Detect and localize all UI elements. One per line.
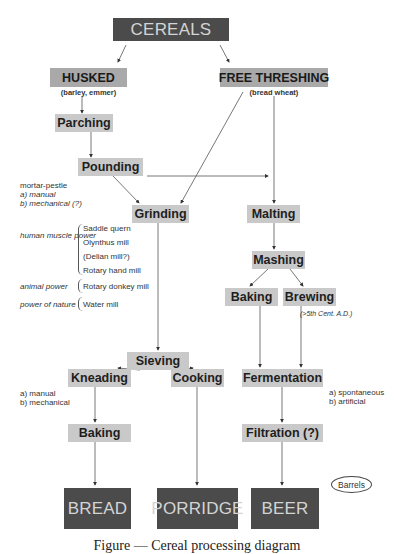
kneading-method-1: b) mechanical bbox=[20, 398, 70, 408]
node-label: Cooking bbox=[173, 371, 223, 385]
mill-saddle-quern: Saddle quern bbox=[83, 224, 131, 234]
node-label: Baking bbox=[79, 426, 121, 440]
node-label: Pounding bbox=[82, 160, 140, 174]
node-baking-beer: Baking bbox=[225, 288, 278, 306]
node-label: Parching bbox=[57, 116, 111, 130]
mill-rotary-hand: Rotary hand mill bbox=[83, 266, 141, 276]
node-cereals: CEREALS bbox=[113, 18, 229, 41]
figure-caption: Figure — Cereal processing diagram bbox=[0, 538, 394, 554]
node-label: Fermentation bbox=[243, 371, 322, 385]
barrels-ellipse: Barrels bbox=[331, 476, 372, 493]
node-grinding: Grinding bbox=[132, 205, 189, 223]
node-label: PORRIDGE bbox=[151, 499, 243, 519]
node-label: Kneading bbox=[71, 371, 128, 385]
mill-olynthus: Olynthus mill bbox=[83, 238, 129, 248]
node-beer: BEER bbox=[251, 488, 319, 529]
mill-delian: (Delian mill?) bbox=[83, 252, 130, 262]
node-kneading: Kneading bbox=[68, 369, 131, 387]
mill-water: Water mill bbox=[83, 300, 118, 310]
node-porridge: PORRIDGE bbox=[157, 488, 238, 529]
node-bread: BREAD bbox=[64, 488, 131, 529]
node-label: BREAD bbox=[68, 499, 128, 519]
node-label: Grinding bbox=[134, 207, 186, 221]
node-parching: Parching bbox=[55, 114, 113, 132]
brewing-subtitle: (>5th Cent. A.D.) bbox=[300, 309, 352, 319]
husked-subtitle: (barley, emmer) bbox=[50, 88, 127, 97]
node-label: Baking bbox=[231, 290, 273, 304]
power-animal-label: animal power bbox=[20, 282, 68, 292]
node-mashing: Mashing bbox=[252, 251, 305, 269]
node-husked: HUSKED bbox=[50, 68, 127, 87]
free-threshing-subtitle: (bread wheat) bbox=[220, 88, 328, 97]
node-label: Filtration (?) bbox=[246, 426, 319, 440]
node-label: CEREALS bbox=[131, 20, 212, 40]
node-brewing: Brewing bbox=[283, 288, 336, 306]
node-label: FREE THRESHING bbox=[219, 71, 329, 85]
node-fermentation: Fermentation bbox=[242, 369, 323, 387]
pounding-method-2: b) mechanical (?) bbox=[20, 199, 82, 209]
node-filtration: Filtration (?) bbox=[242, 424, 323, 442]
node-malting: Malting bbox=[247, 205, 300, 223]
node-cooking: Cooking bbox=[171, 369, 224, 387]
node-label: Brewing bbox=[285, 290, 334, 304]
node-baking-bread: Baking bbox=[68, 424, 131, 442]
node-pounding: Pounding bbox=[78, 158, 143, 176]
node-label: Mashing bbox=[253, 253, 304, 267]
node-free-threshing: FREE THRESHING bbox=[220, 68, 328, 87]
barrels-label: Barrels bbox=[338, 480, 365, 490]
node-label: HUSKED bbox=[62, 71, 115, 85]
fermentation-method-1: b) artificial bbox=[329, 397, 365, 407]
node-label: Malting bbox=[252, 207, 296, 221]
power-nature-label: power of nature bbox=[20, 300, 76, 310]
mill-rotary-donkey: Rotary donkey mill bbox=[83, 282, 149, 292]
node-sieving: Sieving bbox=[127, 352, 189, 370]
node-label: Sieving bbox=[136, 354, 180, 368]
node-label: BEER bbox=[261, 499, 308, 519]
